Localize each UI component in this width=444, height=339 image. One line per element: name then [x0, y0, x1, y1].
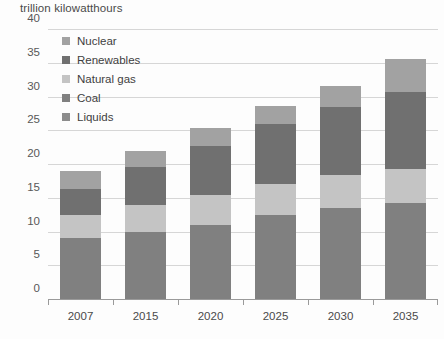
- x-tick-label-2015: 2015: [133, 310, 159, 322]
- bar-segment-renewables[interactable]: [320, 107, 361, 176]
- y-tick-label-25: 25: [27, 113, 40, 125]
- bar-segment-renewables[interactable]: [190, 146, 231, 195]
- bar-segment-natural-gas[interactable]: [190, 195, 231, 225]
- bar-segment-renewables[interactable]: [125, 167, 166, 204]
- bar-segment-natural-gas[interactable]: [60, 215, 101, 238]
- x-tick-mark-end: [437, 300, 438, 305]
- bar-2025[interactable]: [255, 106, 296, 299]
- bar-segment-natural-gas[interactable]: [385, 169, 426, 203]
- x-tick-label-2020: 2020: [198, 310, 224, 322]
- bar-segment-renewables[interactable]: [60, 189, 101, 215]
- legend-label-coal: Coal: [77, 92, 101, 104]
- bar-segment-renewables[interactable]: [385, 92, 426, 169]
- legend-swatch-nuclear: [62, 37, 70, 45]
- x-tick-mark-2030: [308, 300, 309, 305]
- bar-segment-coal[interactable]: [60, 238, 101, 299]
- x-tick-label-2035: 2035: [393, 310, 419, 322]
- bar-segment-coal[interactable]: [255, 215, 296, 299]
- legend-swatch-renewables: [62, 56, 70, 64]
- bar-segment-coal[interactable]: [320, 208, 361, 299]
- bar-segment-coal[interactable]: [125, 232, 166, 300]
- bar-2030[interactable]: [320, 86, 361, 299]
- y-tick-label-40: 40: [27, 12, 40, 24]
- y-tick-label-30: 30: [27, 80, 40, 92]
- bar-segment-coal[interactable]: [385, 203, 426, 299]
- x-tick-label-2007: 2007: [68, 310, 94, 322]
- bar-segment-natural-gas[interactable]: [125, 205, 166, 232]
- bar-2020[interactable]: [190, 128, 231, 299]
- bar-2015[interactable]: [125, 151, 166, 300]
- x-tick-mark-2015: [113, 300, 114, 305]
- bar-segment-renewables[interactable]: [255, 124, 296, 184]
- gridline-15: [48, 198, 438, 199]
- bar-2007[interactable]: [60, 171, 101, 299]
- x-tick-mark-2035: [373, 300, 374, 305]
- bar-segment-nuclear[interactable]: [385, 59, 426, 92]
- y-tick-label-10: 10: [27, 215, 40, 227]
- y-tick-label-15: 15: [27, 181, 40, 193]
- gridline-10: [48, 232, 438, 233]
- gridline-25: [48, 130, 438, 131]
- legend-label-renewables: Renewables: [77, 54, 140, 66]
- legend-label-liquids: Liquids: [77, 111, 113, 123]
- y-tick-label-20: 20: [27, 147, 40, 159]
- gridline-20: [48, 164, 438, 165]
- legend-swatch-natural-gas: [62, 75, 70, 83]
- stacked-bar-chart: trillion kilowatthours 0510152025303540 …: [0, 0, 444, 339]
- bar-segment-nuclear[interactable]: [125, 151, 166, 168]
- legend-label-natural-gas: Natural gas: [77, 73, 136, 85]
- legend-item-liquids[interactable]: Liquids: [62, 109, 140, 124]
- bar-segment-nuclear[interactable]: [60, 171, 101, 189]
- x-tick-mark-2025: [243, 300, 244, 305]
- x-tick-mark-2007: [48, 300, 49, 305]
- legend-swatch-coal: [62, 94, 70, 102]
- gridline-5: [48, 265, 438, 266]
- y-tick-label-35: 35: [27, 46, 40, 58]
- legend-label-nuclear: Nuclear: [77, 35, 117, 47]
- x-tick-mark-2020: [178, 300, 179, 305]
- bar-segment-nuclear[interactable]: [320, 86, 361, 106]
- y-tick-label-0: 0: [34, 282, 40, 294]
- bar-segment-coal[interactable]: [190, 225, 231, 299]
- legend-item-nuclear[interactable]: Nuclear: [62, 33, 140, 48]
- bar-2035[interactable]: [385, 59, 426, 299]
- gridline-40: [48, 29, 438, 30]
- chart-legend: NuclearRenewablesNatural gasCoalLiquids: [62, 33, 140, 124]
- legend-item-renewables[interactable]: Renewables: [62, 52, 140, 67]
- legend-swatch-liquids: [62, 113, 70, 121]
- x-tick-label-2025: 2025: [263, 310, 289, 322]
- legend-item-natural-gas[interactable]: Natural gas: [62, 71, 140, 86]
- y-tick-label-5: 5: [34, 248, 40, 260]
- bar-segment-natural-gas[interactable]: [255, 184, 296, 215]
- x-axis-line: [48, 299, 438, 300]
- bar-segment-nuclear[interactable]: [190, 128, 231, 146]
- bar-segment-nuclear[interactable]: [255, 106, 296, 124]
- bar-segment-natural-gas[interactable]: [320, 175, 361, 207]
- x-tick-label-2030: 2030: [328, 310, 354, 322]
- legend-item-coal[interactable]: Coal: [62, 90, 140, 105]
